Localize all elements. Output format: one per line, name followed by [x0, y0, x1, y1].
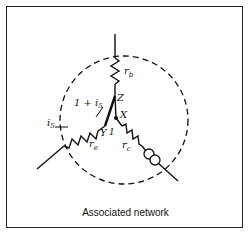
label-current-left: i5: [47, 117, 55, 130]
resistor-rb: [105, 34, 119, 126]
label-node-y: Y: [100, 127, 108, 138]
label-rb: rb: [124, 65, 134, 79]
label-node-z: Z: [116, 92, 125, 103]
current-source-icon: [144, 149, 160, 165]
figure-caption: Associated network: [0, 207, 251, 218]
label-one: 1: [109, 127, 115, 137]
label-node-x: X: [119, 109, 128, 120]
label-re: re: [89, 138, 98, 152]
label-current-top: 1 + i5: [74, 97, 103, 110]
label-rc: rc: [122, 139, 131, 153]
network-diagram: rb Z X Y 1 1 + i5 i5 re rc: [0, 0, 251, 240]
